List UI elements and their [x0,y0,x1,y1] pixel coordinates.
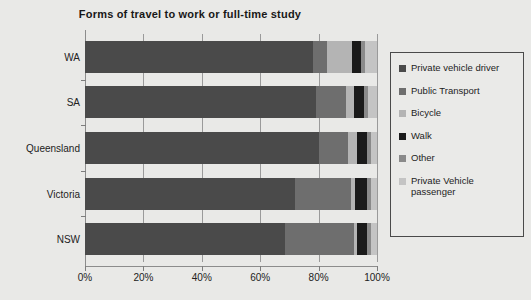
x-axis-tick-label: 60% [250,272,270,283]
y-axis-tick [81,171,86,172]
bar-row [85,178,377,210]
y-axis-tick [81,216,86,217]
legend-swatch-icon [399,110,406,117]
bar-segment [285,223,354,255]
legend-label: Private Vehicle passenger [411,175,517,198]
bar-segment [357,223,367,255]
x-axis-tick-label: 20% [133,272,153,283]
bar-segment [85,178,295,210]
legend-swatch-icon [399,133,406,140]
bar-row [85,41,377,73]
x-axis-tick [143,266,144,271]
bar-row [85,132,377,164]
x-axis-tick-label: 100% [364,272,390,283]
bar-row [85,223,377,255]
bar-segment [368,86,377,118]
x-axis-tick [85,266,86,271]
legend-swatch-icon [399,155,406,162]
bar-segment [365,41,377,73]
legend-label: Walk [411,130,432,142]
legend-item[interactable]: Private Vehicle passenger [399,175,517,198]
legend-label: Public Transport [411,85,480,97]
legend-label: Private vehicle driver [411,62,499,74]
x-axis-tick-label: 80% [309,272,329,283]
x-axis-tick [202,266,203,271]
legend-item[interactable]: Other [399,152,517,164]
y-axis-category-label: Queensland [26,143,80,154]
bar-segment [371,178,377,210]
bar-segment [371,223,377,255]
y-axis-category-label: NSW [57,234,80,245]
bar-segment [85,132,319,164]
x-axis-line [85,266,378,267]
bar-segment [354,86,364,118]
bar-segment [352,41,361,73]
legend-label: Other [411,152,435,164]
x-axis-tick-label: 40% [192,272,212,283]
legend-item[interactable]: Walk [399,130,517,142]
x-axis-tick [319,266,320,271]
chart-legend: Private vehicle driverPublic TransportBi… [390,52,524,237]
bar-segment [357,132,367,164]
bar-segment [85,86,316,118]
bar-row [85,86,377,118]
y-axis-category-label: Victoria [47,188,80,199]
bar-segment [371,132,377,164]
stacked-bar-chart: Forms of travel to work or full-time stu… [0,0,531,300]
x-axis-tick-label: 0% [78,272,92,283]
bar-segment [316,86,347,118]
y-axis-category-label: SA [67,97,80,108]
legend-item[interactable]: Private vehicle driver [399,62,517,74]
legend-item[interactable]: Public Transport [399,85,517,97]
legend-item[interactable]: Bicycle [399,107,517,119]
bar-segment [313,41,328,73]
legend-label: Bicycle [411,107,441,119]
y-axis-tick [81,125,86,126]
bar-segment [295,178,350,210]
bar-segment [85,41,313,73]
y-axis-category-label: WA [64,51,80,62]
gridline [377,34,378,262]
x-axis-tick [260,266,261,271]
bar-segment [319,132,348,164]
legend-swatch-icon [399,88,406,95]
bar-segment [327,41,352,73]
bar-segment [346,86,353,118]
x-axis-tick [377,266,378,271]
legend-swatch-icon [399,178,406,185]
bar-segment [348,132,357,164]
legend-swatch-icon [399,65,406,72]
bar-segment [85,223,285,255]
y-axis-tick [81,80,86,81]
y-axis-category-labels: WASAQueenslandVictoriaNSW [0,0,80,300]
bar-segment [355,178,367,210]
plot-area [85,34,377,262]
